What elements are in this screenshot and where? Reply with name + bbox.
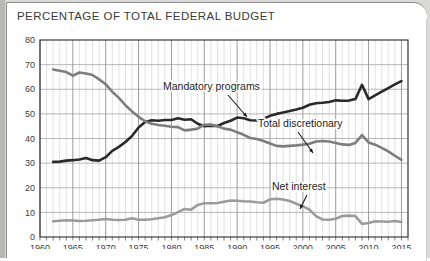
y-axis-tick-label: 20 — [25, 183, 35, 193]
y-axis-tick-label: 70 — [25, 60, 35, 70]
x-axis-tick-label: 2010 — [359, 243, 379, 249]
chart-plot-area: 0102030405060708019601965197019751980198… — [12, 31, 418, 249]
y-axis-tick-label: 60 — [25, 84, 35, 94]
x-axis-tick-label: 1980 — [161, 243, 181, 249]
y-axis-tick-label: 50 — [25, 109, 35, 119]
series-annotation-label: Net interest — [272, 180, 326, 192]
x-axis-tick-label: 2000 — [293, 243, 313, 249]
x-axis-tick-label: 1970 — [96, 243, 116, 249]
x-axis-tick-label: 2005 — [326, 243, 346, 249]
page-title: PERCENTAGE OF TOTAL FEDERAL BUDGET — [17, 10, 275, 22]
y-axis-tick-label: 80 — [25, 35, 35, 45]
card-right-edge — [426, 19, 427, 261]
y-axis-tick-label: 40 — [25, 134, 35, 144]
x-axis-tick-label: 1960 — [30, 243, 50, 249]
x-axis-tick-label: 1965 — [63, 243, 83, 249]
x-axis-tick-label: 2015 — [391, 243, 411, 249]
y-axis-tick-label: 10 — [25, 208, 35, 218]
x-axis-tick-label: 1975 — [129, 243, 149, 249]
y-axis-tick-label: 0 — [30, 232, 35, 242]
series-annotation-label: Mandatory programs — [163, 80, 260, 92]
x-axis-tick-label: 1995 — [260, 243, 280, 249]
line-chart: 0102030405060708019601965197019751980198… — [12, 31, 418, 249]
series-annotation-label: Total discretionary — [258, 117, 343, 129]
page-gutter-shadow — [0, 0, 5, 258]
x-axis-tick-label: 1990 — [227, 243, 247, 249]
y-axis-tick-label: 30 — [25, 158, 35, 168]
x-axis-tick-label: 1985 — [194, 243, 214, 249]
